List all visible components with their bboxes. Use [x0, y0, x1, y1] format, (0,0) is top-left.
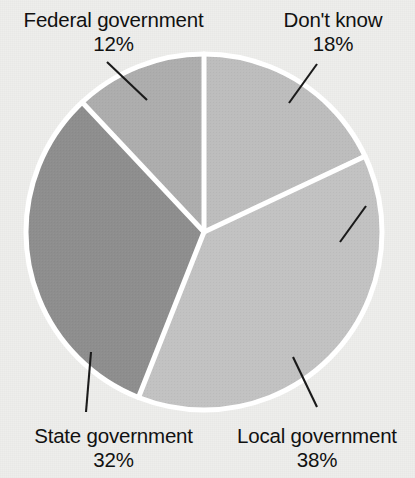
slice-label-state-government-name: State government [6, 424, 221, 448]
slice-label-local-government-name: Local government [222, 424, 412, 448]
slice-label-state-government: State government 32% [6, 424, 221, 472]
slice-label-dont-know-name: Don't know [258, 8, 408, 32]
slice-label-federal-government-name: Federal government [6, 8, 221, 32]
slice-label-local-government-percent: 38% [222, 448, 412, 472]
slice-label-local-government: Local government 38% [222, 424, 412, 472]
pie-chart-figure: Federal government 12% Don't know 18% St… [0, 0, 415, 478]
slice-label-federal-government: Federal government 12% [6, 8, 221, 56]
slice-label-federal-government-percent: 12% [6, 32, 221, 56]
slice-label-dont-know-percent: 18% [258, 32, 408, 56]
pie-chart-graphic [0, 0, 415, 478]
slice-label-state-government-percent: 32% [6, 448, 221, 472]
slice-label-dont-know: Don't know 18% [258, 8, 408, 56]
